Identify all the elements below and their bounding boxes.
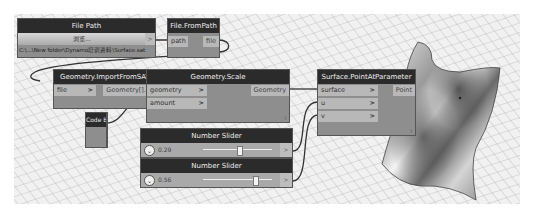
- slider-row: ⌄ 0.56 >: [141, 173, 292, 187]
- lacing-indicator: l: [285, 115, 286, 121]
- point-marker: [459, 97, 462, 100]
- geometry-scale-node[interactable]: Geometry.Scale geometry> amount> Geometr…: [146, 69, 290, 123]
- node-title: Geometry.Scale: [147, 70, 289, 84]
- input-port-amount[interactable]: amount>: [147, 98, 207, 109]
- output-port[interactable]: >: [145, 33, 155, 45]
- code-block-node[interactable]: Code Block: [85, 112, 107, 148]
- import-from-sat-node[interactable]: Geometry.ImportFromSAT file> Geometry[].…: [53, 69, 157, 109]
- input-port-geometry[interactable]: geometry>: [147, 85, 207, 96]
- node-title: Code Block: [86, 113, 106, 127]
- port-arrow-icon: >: [199, 85, 204, 96]
- file-path-node[interactable]: File Path 浏览... > C:\...\New folder\Dyna…: [17, 18, 156, 58]
- input-port-path[interactable]: path: [168, 36, 188, 47]
- output-port-file[interactable]: file: [203, 36, 219, 47]
- output-port-point[interactable]: Point: [393, 85, 415, 96]
- output-port-geometry[interactable]: Geometry: [251, 85, 289, 96]
- input-port-surface[interactable]: surface>: [318, 85, 378, 96]
- lacing-indicator: l: [411, 128, 412, 134]
- node-title: File Path: [18, 19, 155, 33]
- slider-thumb[interactable]: [237, 146, 243, 156]
- output-port[interactable]: >: [280, 143, 292, 157]
- number-slider-v-node[interactable]: Number Slider ⌄ 0.56 >: [140, 158, 293, 188]
- input-port-file[interactable]: file>: [54, 85, 96, 96]
- node-title: File.FromPath: [168, 19, 219, 33]
- port-arrow-icon: >: [88, 85, 93, 96]
- node-title: Surface.PointAtParameter: [318, 70, 415, 84]
- chevron-down-icon[interactable]: ⌄: [144, 145, 155, 156]
- chevron-down-icon[interactable]: ⌄: [144, 175, 155, 186]
- node-title: Geometry.ImportFromSAT: [54, 70, 156, 84]
- slider-track[interactable]: [203, 179, 272, 180]
- number-slider-u-node[interactable]: Number Slider ⌄ 0.29 >: [140, 128, 293, 158]
- input-port-u[interactable]: u>: [318, 98, 378, 109]
- slider-thumb[interactable]: [253, 176, 259, 186]
- file-from-path-node[interactable]: File.FromPath path file: [167, 18, 220, 58]
- output-port[interactable]: >: [280, 173, 292, 187]
- file-path-value: C:\...\New folder\Dynamo培训资料\Surface.sat: [19, 46, 145, 54]
- point-at-parameter-node[interactable]: Surface.PointAtParameter surface> u> v> …: [317, 69, 416, 136]
- browse-button[interactable]: 浏览...: [18, 33, 146, 45]
- node-title: Number Slider: [141, 129, 292, 143]
- port-arrow-icon: >: [370, 85, 375, 96]
- slider-row: ⌄ 0.29 >: [141, 143, 292, 157]
- port-arrow-icon: >: [199, 98, 204, 109]
- slider-value: 0.29: [158, 143, 171, 157]
- node-title: Number Slider: [141, 159, 292, 173]
- port-arrow-icon: >: [370, 111, 375, 122]
- input-port-v[interactable]: v>: [318, 111, 378, 122]
- slider-value: 0.56: [158, 173, 171, 187]
- port-arrow-icon: >: [370, 98, 375, 109]
